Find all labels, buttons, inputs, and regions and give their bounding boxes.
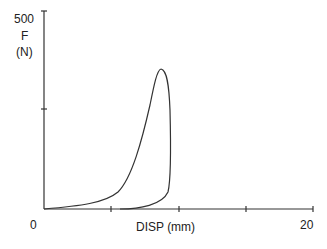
y-axis-name: F [21, 29, 28, 43]
x-max-label: 20 [300, 218, 313, 232]
y-axis-unit: (N) [16, 45, 33, 59]
unloading-curve [120, 69, 171, 209]
x-min-label: 0 [30, 218, 37, 232]
x-axis-title: DISP (mm) [136, 220, 195, 234]
y-max-label: 500 [14, 12, 34, 26]
chart-plot [0, 0, 327, 249]
loading-curve [44, 69, 161, 209]
